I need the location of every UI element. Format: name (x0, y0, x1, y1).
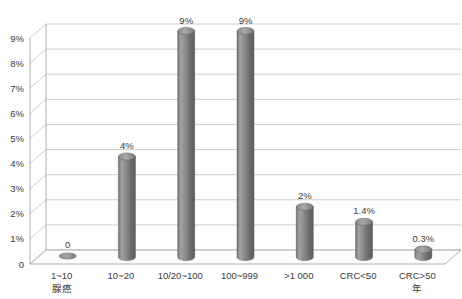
y-tick-label: 6% (10, 108, 24, 119)
x-tick-label: 10~20 (108, 270, 135, 281)
bar->1 000 (296, 203, 313, 260)
y-tick-label: 2% (10, 208, 24, 219)
column-chart-3d: 01%2%3%4%5%6%7%8%9% 1~10腺癌10~2010/20~100… (0, 0, 462, 299)
y-tick-label: 1% (10, 233, 24, 244)
bar-1~10 (59, 253, 76, 259)
bar-CRC<50 (356, 218, 373, 260)
x-tick-sublabel: 年 (412, 283, 422, 294)
data-label-100~999: 9% (239, 15, 253, 26)
bar-10/20~100 (178, 27, 195, 260)
y-tick-label: 5% (10, 133, 24, 144)
y-tick-label: 0 (19, 259, 24, 270)
chart-svg: 01%2%3%4%5%6%7%8%9% 1~10腺癌10~2010/20~100… (0, 0, 462, 299)
y-tick-label: 7% (10, 83, 24, 94)
y-tick-label: 3% (10, 183, 24, 194)
x-tick-label: >1 000 (284, 270, 313, 281)
data-label-1~10: 0 (65, 239, 70, 250)
data-label-10/20~100: 9% (179, 15, 193, 26)
data-label->1 000: 2% (298, 190, 312, 201)
x-tick-label: CRC<50 (340, 270, 377, 281)
x-tick-label: 100~999 (221, 270, 258, 281)
y-tick-label: 8% (10, 58, 24, 69)
x-tick-label: 10/20~100 (158, 270, 203, 281)
bar-100~999 (237, 27, 254, 260)
y-tick-label: 9% (10, 33, 24, 44)
x-tick-label: 1~10 (51, 270, 72, 281)
data-label-CRC<50: 1.4% (353, 205, 375, 216)
y-tick-label: 4% (10, 158, 24, 169)
data-label-CRC>50: 0.3% (413, 233, 435, 244)
bar-CRC>50 (415, 246, 432, 261)
x-tick-label: CRC>50 (399, 270, 436, 281)
x-tick-sublabel: 腺癌 (52, 283, 72, 294)
bar-10~20 (118, 153, 135, 261)
data-label-10~20: 4% (120, 140, 134, 151)
